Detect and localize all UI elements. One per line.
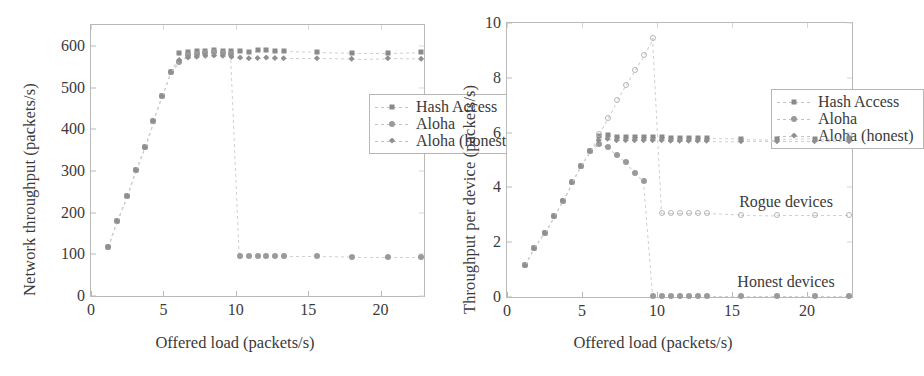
plot-area: Hash Access Aloha Aloha (honest) 0100200… [90,24,425,297]
y-tick-mark-right [419,87,424,88]
data-point-marker [272,253,278,259]
data-point-marker [614,97,620,103]
series-line-segment [127,170,137,196]
data-point-marker [255,55,261,61]
data-point-marker [349,50,354,55]
chart-annotation: Honest devices [737,273,834,291]
x-tick-label: 0 [87,301,95,319]
y-tick-label: 4 [493,178,501,196]
legend-label: Hash Access [818,94,899,110]
x-tick-mark-top [582,23,583,28]
x-axis-label: Offered load (packets/s) [14,333,456,353]
data-point-marker [349,56,355,62]
y-tick-mark-right [847,132,852,133]
data-point-marker [255,253,261,259]
y-tick-mark [507,77,512,78]
y-tick-mark [91,212,96,213]
y-tick-mark-right [847,242,852,243]
y-tick-mark-right [419,170,424,171]
x-tick-mark-top [381,25,382,30]
data-point-marker [419,50,424,55]
data-point-marker [605,144,611,150]
series-line-segment [545,216,555,233]
series-line-segment [741,139,777,141]
data-point-marker [695,210,701,216]
data-point-marker [846,293,852,299]
circle-marker-icon [375,117,409,131]
x-tick-mark-top [91,25,92,30]
x-tick-mark-top [507,23,508,28]
x-tick-label: 15 [724,302,740,320]
series-line-segment [777,215,815,216]
series-line-segment [572,166,582,183]
series-line-segment [815,141,850,142]
x-tick-mark-top [163,25,164,30]
y-tick-label: 300 [61,162,85,180]
data-point-marker [314,253,320,259]
square-marker-icon [777,95,811,109]
series-line-segment [815,215,850,216]
y-tick-label: 200 [61,204,85,222]
data-point-marker [596,131,602,137]
data-point-marker [263,55,269,61]
series-line-segment [815,296,850,297]
series-line-segment [352,58,388,59]
series-line-segment [317,58,352,59]
chart-throughput-per-device: Throughput per device (packets/s) Offere… [442,0,884,376]
y-tick-mark [507,242,512,243]
series-line-segment [352,53,388,54]
x-tick-label: 5 [159,301,167,319]
data-point-marker [695,293,701,299]
data-point-marker [677,293,683,299]
y-tick-mark [507,132,512,133]
legend-item-hash-access: Hash Access [777,93,914,110]
series-line-segment [563,182,573,201]
x-tick-mark-top [732,23,733,28]
x-tick-label: 20 [373,301,389,319]
data-point-marker [641,52,647,58]
y-tick-label: 0 [77,287,85,305]
data-point-marker [255,48,260,53]
square-marker-icon [375,100,409,114]
series-line-segment [815,138,850,140]
data-point-marker [704,293,710,299]
data-point-marker [704,210,710,216]
y-tick-label: 6 [493,124,501,142]
series-line-segment [534,233,545,249]
data-point-marker [659,210,665,216]
y-tick-label: 600 [61,37,85,55]
data-point-marker [738,212,744,218]
x-tick-label: 5 [578,302,586,320]
data-point-marker [238,48,243,53]
y-tick-mark [91,254,96,255]
y-tick-mark [507,187,512,188]
data-point-marker [314,55,320,61]
data-point-marker [632,170,638,176]
x-tick-mark-top [807,23,808,28]
x-tick-mark [308,291,309,296]
series-line-segment [284,58,317,59]
series-line-segment [777,141,815,142]
data-point-marker [738,293,744,299]
diamond-marker-icon [375,134,409,148]
series-line-segment [162,72,172,96]
series-line-segment [706,138,741,140]
y-tick-mark-right [419,212,424,213]
data-point-marker [605,115,611,121]
x-tick-mark-top [308,25,309,30]
data-point-marker [385,50,390,55]
x-axis-label: Offered load (packets/s) [432,333,874,353]
series-line-segment [741,296,777,297]
series-line-segment [117,196,128,221]
x-tick-mark [507,292,508,297]
y-axis-label: Network throughput (packets/s) [20,83,40,296]
series-line-segment [706,141,741,143]
data-point-marker [418,254,424,260]
data-point-marker [774,212,780,218]
data-point-marker [614,152,620,158]
y-tick-mark-right [419,129,424,130]
x-tick-mark [91,291,92,296]
data-point-marker [623,82,629,88]
data-point-marker [246,49,251,54]
